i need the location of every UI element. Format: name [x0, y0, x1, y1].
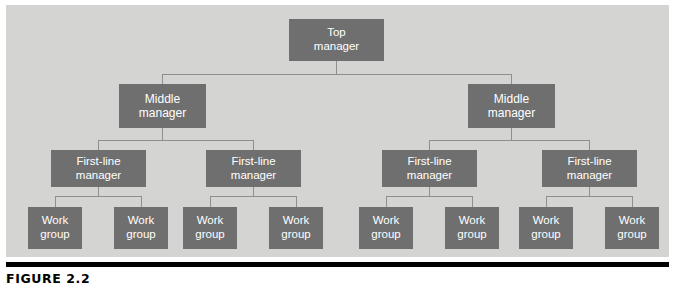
connector-mid1-trunk — [162, 128, 163, 140]
node-label-line2: manager — [231, 169, 276, 183]
node-label-line2: group — [40, 228, 69, 242]
node-label-line2: group — [195, 228, 224, 242]
node-label-line1: Work — [459, 214, 486, 228]
node-work-group-4[interactable]: Work group — [269, 207, 323, 249]
node-label-line2: group — [457, 228, 486, 242]
node-label-line1: Work — [533, 214, 560, 228]
connector-mid2-drop-left — [429, 140, 430, 150]
node-label-line2: manager — [139, 106, 186, 120]
node-label-line1: First-line — [231, 155, 275, 169]
connector-flm2-bus — [210, 196, 296, 197]
node-label-line1: Middle — [145, 92, 180, 106]
node-label-line1: Top — [327, 26, 346, 40]
node-work-group-6[interactable]: Work group — [445, 207, 499, 249]
connector-flm1-trunk — [98, 187, 99, 196]
node-label-line2: manager — [488, 106, 535, 120]
connector-flm1-bus — [55, 196, 141, 197]
caption-divider-rule — [6, 262, 669, 267]
connector-mid2-drop-right — [589, 140, 590, 150]
figure-caption-label: FIGURE 2.2 — [6, 271, 669, 286]
connector-mid1-drop-left — [98, 140, 99, 150]
connector-top-drop-left — [162, 74, 163, 84]
node-work-group-2[interactable]: Work group — [114, 207, 168, 249]
connector-flm3-drop-left — [386, 196, 387, 207]
node-label-line1: Work — [128, 214, 155, 228]
node-label-line1: Work — [42, 214, 69, 228]
connector-top-drop-right — [511, 74, 512, 84]
node-label-line2: manager — [76, 169, 121, 183]
node-work-group-3[interactable]: Work group — [183, 207, 237, 249]
node-first-line-manager-1[interactable]: First-line manager — [51, 150, 146, 187]
node-work-group-7[interactable]: Work group — [519, 207, 573, 249]
node-label-line1: Middle — [494, 92, 529, 106]
node-work-group-1[interactable]: Work group — [28, 207, 82, 249]
node-work-group-5[interactable]: Work group — [359, 207, 413, 249]
connector-flm4-drop-left — [546, 196, 547, 207]
node-label-line2: manager — [314, 40, 359, 54]
node-label-line2: manager — [567, 169, 612, 183]
node-label-line1: First-line — [76, 155, 120, 169]
connector-flm3-trunk — [429, 187, 430, 196]
figure-caption-block: FIGURE 2.2 — [6, 262, 669, 286]
node-label-line2: group — [126, 228, 155, 242]
connector-flm3-bus — [386, 196, 472, 197]
connector-flm2-drop-right — [296, 196, 297, 207]
node-label-line2: group — [371, 228, 400, 242]
node-label-line2: manager — [407, 169, 452, 183]
node-first-line-manager-4[interactable]: First-line manager — [542, 150, 637, 187]
node-label-line1: First-line — [567, 155, 611, 169]
node-label-line1: Work — [283, 214, 310, 228]
node-label-line2: group — [531, 228, 560, 242]
connector-top-bus — [162, 74, 511, 75]
connector-mid2-trunk — [511, 128, 512, 140]
node-label-line1: Work — [619, 214, 646, 228]
node-top-manager[interactable]: Top manager — [289, 19, 384, 61]
connector-flm4-drop-right — [632, 196, 633, 207]
organizational-chart: Top manager Middle manager Middle manage… — [6, 5, 669, 257]
connector-flm2-trunk — [253, 187, 254, 196]
connector-flm4-bus — [546, 196, 632, 197]
node-label-line2: group — [281, 228, 310, 242]
node-label-line1: First-line — [407, 155, 451, 169]
connector-flm1-drop-left — [55, 196, 56, 207]
connector-top-trunk — [336, 61, 337, 74]
connector-mid1-drop-right — [253, 140, 254, 150]
node-first-line-manager-3[interactable]: First-line manager — [382, 150, 477, 187]
node-middle-manager-1[interactable]: Middle manager — [119, 84, 206, 128]
node-work-group-8[interactable]: Work group — [605, 207, 659, 249]
connector-flm2-drop-left — [210, 196, 211, 207]
node-middle-manager-2[interactable]: Middle manager — [468, 84, 555, 128]
node-label-line2: group — [617, 228, 646, 242]
node-label-line1: Work — [373, 214, 400, 228]
node-label-line1: Work — [197, 214, 224, 228]
connector-mid1-bus — [98, 140, 253, 141]
node-first-line-manager-2[interactable]: First-line manager — [206, 150, 301, 187]
connector-flm1-drop-right — [141, 196, 142, 207]
figure-panel: Top manager Middle manager Middle manage… — [6, 5, 669, 257]
connector-mid2-bus — [429, 140, 589, 141]
connector-flm4-trunk — [589, 187, 590, 196]
connector-flm3-drop-right — [472, 196, 473, 207]
